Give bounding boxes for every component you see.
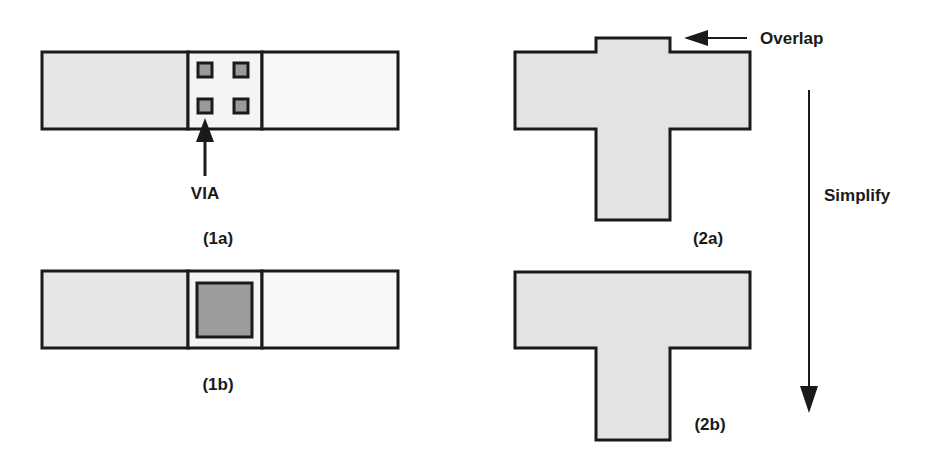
via-square <box>234 99 248 113</box>
metal-segment-right <box>262 52 398 129</box>
panel-2a-label: (2a) <box>693 229 723 248</box>
panel-1b: (1b) <box>42 271 398 394</box>
metal-segment-left <box>42 271 188 348</box>
panel-2b: (2b) <box>515 272 750 440</box>
metal-segment-left <box>42 52 188 129</box>
overlap-pointer-arrow-icon <box>684 30 747 46</box>
via-square <box>198 63 212 77</box>
merged-via-square <box>197 283 252 337</box>
t-polygon-with-overlap <box>515 38 750 220</box>
arrow-down-icon <box>800 386 818 413</box>
via-label: VIA <box>191 184 219 203</box>
panel-2b-label: (2b) <box>694 415 725 434</box>
overlap-label: Overlap <box>760 29 823 48</box>
panel-1a-label: (1a) <box>203 229 233 248</box>
panel-2a: Overlap (2a) <box>515 29 823 248</box>
via-square <box>198 99 212 113</box>
simplify-label: Simplify <box>824 186 891 205</box>
metal-segment-right <box>262 271 398 348</box>
via-square <box>234 63 248 77</box>
panel-1b-label: (1b) <box>202 375 233 394</box>
simplify-arrow: Simplify <box>800 90 891 413</box>
panel-1a: VIA (1a) <box>42 52 398 248</box>
via-simplification-diagram: VIA (1a) (1b) Overlap (2a) Simplify (2b) <box>0 0 932 464</box>
